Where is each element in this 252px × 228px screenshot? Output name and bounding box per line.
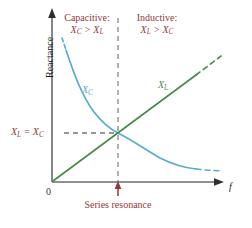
capacitive-reactance-curve [62, 38, 220, 171]
capacitive-region-title: Capacitive: [64, 12, 110, 23]
ind-cond-first-sub: L [147, 28, 151, 36]
tick-x-right-sub: C [39, 131, 44, 139]
xl-sub: L [164, 84, 168, 92]
inductive-region-condition: XL > XC [128, 24, 186, 36]
resonance-arrow-icon [115, 181, 122, 196]
xc-sub: C [88, 89, 93, 97]
cap-cond-first-sub: C [77, 28, 82, 36]
x-axis [52, 178, 224, 186]
x-axis-label: f [229, 181, 232, 193]
capacitive-region-condition: XC > XL [58, 24, 116, 36]
series-resonance-label: Series resonance [68, 199, 168, 210]
tick-op: = [21, 126, 33, 137]
capacitive-curve-label: XC [82, 84, 93, 95]
equal-reactance-tick-label: XL = XC [11, 126, 44, 138]
ind-cond-op: > [151, 24, 163, 35]
reactance-vs-frequency-figure: Reactance f 0 XL = XC Capacitive: XC > X… [0, 0, 252, 228]
cap-cond-second-sub: L [99, 28, 103, 36]
cap-cond-op: > [82, 24, 94, 35]
capacitive-region-label: Capacitive: XC > XL [58, 12, 116, 35]
inductive-reactance-line [53, 56, 221, 181]
figure-canvas [0, 0, 252, 228]
origin-label: 0 [46, 186, 51, 198]
y-axis [48, 8, 56, 182]
inductive-curve-label: XL [158, 79, 168, 90]
ind-cond-second: X [162, 24, 168, 35]
ind-cond-second-sub: C [169, 28, 174, 36]
tick-x-left-sub: L [17, 131, 21, 139]
ind-cond-first: X [141, 24, 147, 35]
inductive-region-title: Inductive: [137, 12, 178, 23]
cap-cond-first: X [71, 24, 77, 35]
inductive-region-label: Inductive: XL > XC [128, 12, 186, 35]
y-axis-label: Reactance [44, 37, 55, 78]
